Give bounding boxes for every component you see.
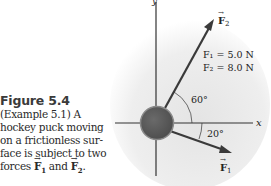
figure-number: Figure 5.4 [0, 94, 112, 108]
caption-line: (Example 5.1) A [0, 108, 112, 121]
y-axis-label: y [151, 0, 158, 6]
svg-text:→: → [218, 9, 224, 17]
caption-line: face is subject to two [0, 147, 112, 160]
F1-magnitude: F₁ = 5.0 N [203, 49, 254, 60]
vector-F1-ref: F1 [34, 160, 46, 177]
svg-text:1: 1 [227, 167, 231, 175]
caption-text: forces [0, 160, 31, 172]
vector-F2-ref: F2 [71, 160, 83, 177]
vector-F2-label: F 2 → [218, 9, 229, 28]
caption-text: and [49, 160, 68, 172]
caption-period: . [82, 160, 85, 172]
caption-line: on a frictionless sur- [0, 134, 112, 147]
hockey-puck [141, 107, 174, 140]
x-axis-label: x [256, 117, 262, 128]
angle-20-label: 20° [207, 128, 224, 139]
svg-text:2: 2 [225, 20, 229, 28]
svg-text:→: → [220, 156, 226, 164]
figure-caption: Figure 5.4 (Example 5.1) A hockey puck m… [0, 94, 112, 177]
angle-60-label: 60° [191, 94, 208, 105]
F2-magnitude: F₂ = 8.0 N [203, 62, 254, 73]
caption-line-last: forces F1 and F2. [0, 160, 112, 177]
vector-subscript: 1 [41, 166, 46, 175]
shaded-background [110, 20, 270, 186]
caption-line: hockey puck moving [0, 121, 112, 134]
vector-subscript: 2 [78, 166, 83, 175]
vector-symbol: F [71, 160, 78, 172]
